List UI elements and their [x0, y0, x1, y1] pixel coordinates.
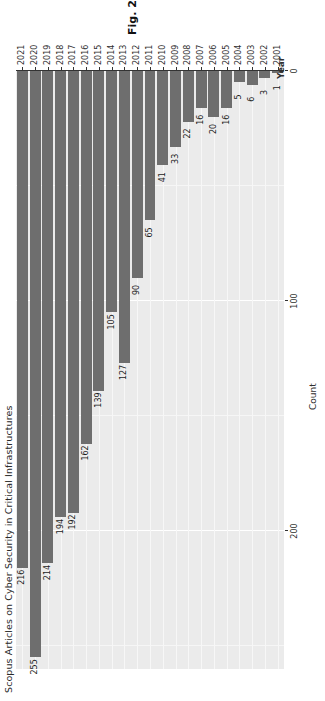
- bar-2016: [81, 71, 92, 444]
- year-tick: [176, 67, 177, 70]
- year-tick-label: 2009: [171, 45, 180, 65]
- chart-title: Scopus Articles on Cyber Security in Cri…: [3, 406, 14, 693]
- year-tick-label: 2002: [260, 45, 269, 65]
- year-axis-title: Year: [276, 57, 286, 79]
- year-tick-label: 2020: [30, 45, 39, 65]
- year-tick-label: 2021: [17, 45, 26, 65]
- year-tick: [239, 67, 240, 70]
- count-tick-label: 200: [290, 519, 299, 543]
- year-tick-label: 2014: [107, 45, 116, 65]
- bar-2005: [221, 71, 232, 108]
- bar-2007: [196, 71, 207, 108]
- year-tick: [150, 67, 151, 70]
- bar-2004: [234, 71, 245, 83]
- year-tick-label: 2013: [119, 45, 128, 65]
- bar-2009: [170, 71, 181, 147]
- year-tick: [86, 67, 87, 70]
- gridline-category: [227, 71, 228, 669]
- bar-value-label: 192: [68, 514, 77, 529]
- bar-value-label: 16: [222, 115, 231, 125]
- bar-2003: [247, 71, 258, 85]
- bar-value-label: 20: [209, 124, 218, 134]
- bar-2012: [132, 71, 143, 278]
- year-tick: [73, 67, 74, 70]
- year-tick-label: 2011: [145, 45, 154, 65]
- bar-value-label: 139: [94, 392, 103, 407]
- bar-2018: [55, 71, 66, 517]
- year-tick: [201, 67, 202, 70]
- year-tick-label: 2016: [81, 45, 90, 65]
- figure-rotator: Scopus Articles on Cyber Security in Cri…: [0, 0, 325, 701]
- count-axis-title: Count: [308, 383, 318, 410]
- year-tick-label: 2017: [68, 45, 77, 65]
- gridline-category: [252, 71, 253, 669]
- bar-value-label: 214: [43, 565, 52, 580]
- count-axis-line: [16, 70, 284, 71]
- year-tick: [214, 67, 215, 70]
- bar-2019: [42, 71, 53, 563]
- bar-value-label: 3: [260, 90, 269, 95]
- bar-value-label: 255: [30, 659, 39, 674]
- year-tick-label: 2004: [234, 45, 243, 65]
- bar-value-label: 16: [196, 115, 205, 125]
- bar-value-label: 6: [247, 97, 256, 102]
- year-tick: [35, 67, 36, 70]
- bar-value-label: 90: [132, 285, 141, 295]
- bar-value-label: 41: [158, 172, 167, 182]
- bar-2020: [30, 71, 41, 658]
- bar-value-label: 65: [145, 227, 154, 237]
- bar-2008: [183, 71, 194, 122]
- figure-caption-label: Fig. 2: [126, 0, 139, 35]
- bar-chart: Scopus Articles on Cyber Security in Cri…: [0, 46, 325, 701]
- bar-2002: [259, 71, 270, 78]
- count-tick: [285, 300, 288, 301]
- bar-2015: [93, 71, 104, 391]
- bar-2014: [106, 71, 117, 313]
- year-tick-label: 2019: [43, 45, 52, 65]
- bar-2011: [145, 71, 156, 221]
- gridline-category: [265, 71, 266, 669]
- year-tick: [48, 67, 49, 70]
- bar-value-label: 216: [17, 570, 26, 585]
- count-tick: [285, 530, 288, 531]
- year-tick-label: 2018: [56, 45, 65, 65]
- bar-value-label: 22: [183, 128, 192, 138]
- year-tick-label: 2010: [158, 45, 167, 65]
- year-tick: [252, 67, 253, 70]
- bar-value-label: 162: [81, 445, 90, 460]
- year-tick: [163, 67, 164, 70]
- bar-2017: [68, 71, 79, 513]
- year-tick: [265, 67, 266, 70]
- bar-value-label: 5: [234, 94, 243, 99]
- gridline-category: [201, 71, 202, 669]
- year-tick-label: 2015: [94, 45, 103, 65]
- year-tick: [112, 67, 113, 70]
- year-tick: [124, 67, 125, 70]
- year-tick-label: 2005: [222, 45, 231, 65]
- bar-2013: [119, 71, 130, 363]
- year-tick: [22, 67, 23, 70]
- plot-panel: [16, 71, 284, 669]
- year-tick: [137, 67, 138, 70]
- year-tick-label: 2006: [209, 45, 218, 65]
- gridline-category: [188, 71, 189, 669]
- year-tick-label: 2007: [196, 45, 205, 65]
- year-tick-label: 2003: [247, 45, 256, 65]
- bar-2010: [157, 71, 168, 165]
- bar-2021: [17, 71, 28, 568]
- bar-2006: [208, 71, 219, 117]
- bar-value-label: 194: [56, 519, 65, 534]
- year-tick: [188, 67, 189, 70]
- year-tick: [61, 67, 62, 70]
- year-tick-label: 2008: [183, 45, 192, 65]
- bar-value-label: 127: [119, 365, 128, 380]
- bar-value-label: 1: [273, 85, 282, 90]
- bar-value-label: 105: [107, 314, 116, 329]
- year-tick: [227, 67, 228, 70]
- count-tick-label: 0: [290, 59, 299, 83]
- year-tick: [99, 67, 100, 70]
- gridline-category: [214, 71, 215, 669]
- gridline-category: [278, 71, 279, 669]
- figure-caption: Fig. 2 Research trends 2001–21.: [126, 0, 139, 35]
- gridline-category: [239, 71, 240, 669]
